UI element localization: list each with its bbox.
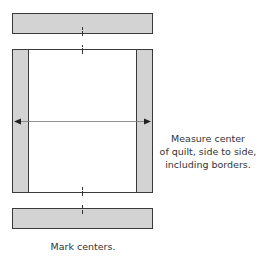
measure-instruction: Measure center of quilt, side to side, i… <box>158 132 258 171</box>
measure-line-1: Measure center <box>158 132 258 145</box>
measure-line-3: including borders. <box>158 158 258 171</box>
measure-line-2: of quilt, side to side, <box>158 145 258 158</box>
quilt-diagram <box>0 0 260 260</box>
mark-centers-label: Mark centers. <box>33 240 133 253</box>
top-border-strip <box>13 14 153 34</box>
quilt-center <box>13 50 153 193</box>
